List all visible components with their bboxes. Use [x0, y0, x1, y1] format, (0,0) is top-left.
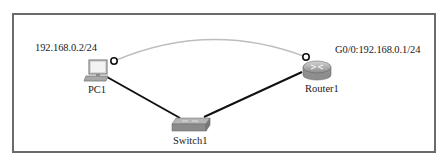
- topology-canvas: [0, 0, 447, 163]
- pc1-name-label: PC1: [88, 85, 106, 96]
- switch1-name-label: Switch1: [173, 136, 207, 147]
- link-indicator-router1: [303, 54, 309, 60]
- router1-address-label: G0/0:192.168.0.1/24: [335, 45, 420, 56]
- switch-icon[interactable]: [172, 118, 210, 131]
- pc1-address-label: 192.168.0.2/24: [35, 43, 97, 54]
- pc-icon[interactable]: [84, 60, 108, 81]
- router-icon[interactable]: [303, 61, 331, 80]
- link-indicator-pc1: [111, 58, 117, 64]
- router1-name-label: Router1: [305, 84, 339, 95]
- link-pc1-router1-arc[interactable]: [114, 39, 306, 61]
- link-router1-switch1[interactable]: [204, 72, 302, 117]
- link-pc1-switch1[interactable]: [107, 77, 180, 118]
